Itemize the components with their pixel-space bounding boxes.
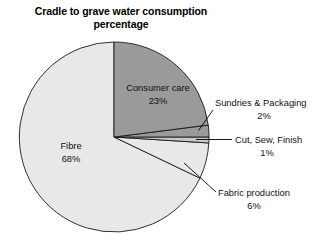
callout-label-sundries-packaging-line1: Sundries & Packaging	[215, 98, 306, 108]
callout-label-cut-sew-finish-line1: Cut, Sew, Finish	[235, 135, 302, 145]
callout-label-sundries-packaging-line2: 2%	[257, 111, 270, 121]
callout-label-fabric-production-line1: Fabric production	[218, 188, 290, 198]
callout-label-cut-sew-finish-line2: 1%	[260, 148, 273, 158]
callout-label-fabric-production-line2: 6%	[247, 201, 260, 211]
slice-label-consumer-care-line2: 23%	[149, 96, 168, 106]
pie-chart-figure: Cradle to grave water consumption percen…	[0, 0, 323, 248]
slice-label-fibre-line2: 68%	[62, 154, 81, 164]
slice-label-fibre-line1: Fibre	[60, 141, 81, 151]
pie-chart-canvas: Consumer care 23% Fibre 68% Sundries & P…	[0, 0, 323, 248]
slice-label-consumer-care-line1: Consumer care	[126, 83, 190, 93]
